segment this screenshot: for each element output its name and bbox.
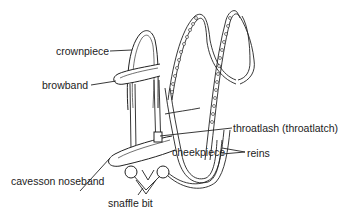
label-snaffle-bit: snaffle bit [108, 197, 153, 209]
browband-leader [91, 81, 116, 85]
reins-leader-2 [222, 152, 245, 154]
laced-reins [168, 11, 254, 160]
snaffle-bit-piece [125, 166, 169, 194]
label-cheekpiece: cheekpiece [172, 146, 225, 158]
snaffle-leader [138, 188, 143, 195]
label-reins: reins [247, 147, 270, 159]
label-browband: browband [42, 79, 88, 91]
crownpiece-leader [110, 50, 132, 51]
reins-leader-1 [222, 148, 245, 152]
label-crownpiece: crownpiece [56, 45, 109, 57]
cavesson-noseband-strap [109, 132, 175, 166]
bridle-diagram: crownpiece browband throatlash (throatla… [0, 0, 351, 216]
label-cavesson-noseband: cavesson noseband [11, 175, 104, 187]
reins-loop [165, 130, 230, 188]
label-throatlash: throatlash (throatlatch) [233, 122, 338, 134]
throatlash-strap [165, 108, 200, 114]
throatlash-leader [160, 128, 232, 136]
